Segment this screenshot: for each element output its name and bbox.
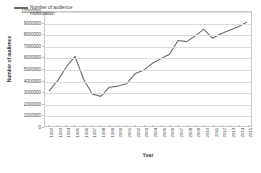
gridline — [45, 82, 251, 83]
x-axis-tick-label: 1993 — [59, 128, 64, 137]
x-axis-tick-label: 2003 — [145, 128, 150, 137]
chart-legend: Number of audience mobilization — [14, 5, 92, 17]
x-axis-tick-label: 2001 — [128, 128, 133, 137]
x-axis-tick-mark — [92, 125, 93, 127]
x-axis-tick-label: 2004 — [154, 128, 159, 137]
x-axis-tick-label: 1998 — [102, 128, 107, 137]
x-axis-tick-label: 2011 — [215, 128, 220, 137]
x-axis-tick-mark — [74, 125, 75, 127]
series-line-number-of-audience-mobilization — [45, 12, 251, 126]
legend-label: Number of audience mobilization — [30, 5, 92, 17]
gridline — [45, 35, 251, 36]
x-axis-tick-label: 2014 — [241, 128, 246, 137]
x-axis-tick-mark — [66, 125, 67, 127]
y-axis-tick-label: 9000000 — [0, 20, 44, 25]
x-axis-tick-label: 2008 — [189, 128, 194, 137]
x-axis-tick-label: 2015 — [249, 128, 254, 137]
x-axis-tick-mark — [239, 125, 240, 127]
x-axis-tick-mark — [248, 125, 249, 127]
gridline — [45, 105, 251, 106]
x-axis-tick-mark — [100, 125, 101, 127]
gridline — [45, 24, 251, 25]
x-axis-tick-label: 2005 — [163, 128, 168, 137]
gridline — [45, 93, 251, 94]
x-axis-tick-mark — [213, 125, 214, 127]
x-axis-tick-mark — [170, 125, 171, 127]
x-axis-tick-label: 2009 — [197, 128, 202, 137]
y-axis-title: Number of audience — [6, 26, 12, 92]
x-axis-tick-mark — [204, 125, 205, 127]
x-axis-tick-mark — [83, 125, 84, 127]
x-axis-tick-label: 2000 — [119, 128, 124, 137]
x-axis-tick-label: 2010 — [206, 128, 211, 137]
x-axis-tick-mark — [57, 125, 58, 127]
x-axis-tick-mark — [230, 125, 231, 127]
x-axis-tick-label: 2006 — [171, 128, 176, 137]
x-axis-tick-mark — [48, 125, 49, 127]
x-axis-tick-mark — [161, 125, 162, 127]
x-axis-tick-mark — [178, 125, 179, 127]
x-axis-tick-labels: 1992199319941995199619971998199920002001… — [44, 128, 252, 152]
legend-color-swatch — [14, 7, 28, 9]
x-axis-tick-label: 1994 — [67, 128, 72, 137]
y-axis-tick-label: 1000000 — [0, 113, 44, 118]
y-axis-tick-label: 2000000 — [0, 101, 44, 106]
gridline — [45, 58, 251, 59]
x-axis-tick-mark — [187, 125, 188, 127]
x-axis-tick-label: 1992 — [50, 128, 55, 137]
x-axis-tick-label: 2002 — [137, 128, 142, 137]
chart-figure: 0100000020000003000000400000050000006000… — [0, 0, 261, 173]
gridline — [45, 47, 251, 48]
x-axis-tick-label: 2013 — [232, 128, 237, 137]
x-axis-tick-mark — [144, 125, 145, 127]
x-axis-tick-mark — [135, 125, 136, 127]
x-axis-tick-mark — [152, 125, 153, 127]
x-axis-tick-label: 1997 — [93, 128, 98, 137]
plot-area — [44, 11, 252, 127]
x-axis-tick-label: 1996 — [85, 128, 90, 137]
x-axis-tick-label: 2007 — [180, 128, 185, 137]
gridline — [45, 70, 251, 71]
x-axis-tick-label: 2012 — [223, 128, 228, 137]
gridline — [45, 116, 251, 117]
x-axis-tick-label: 1999 — [111, 128, 116, 137]
x-axis-tick-mark — [126, 125, 127, 127]
x-axis-tick-mark — [118, 125, 119, 127]
x-axis-title: Year — [44, 152, 252, 158]
x-axis-tick-label: 1995 — [76, 128, 81, 137]
x-axis-tick-mark — [222, 125, 223, 127]
x-axis-tick-mark — [196, 125, 197, 127]
x-axis-tick-mark — [109, 125, 110, 127]
y-axis-tick-label: 0 — [0, 125, 44, 130]
